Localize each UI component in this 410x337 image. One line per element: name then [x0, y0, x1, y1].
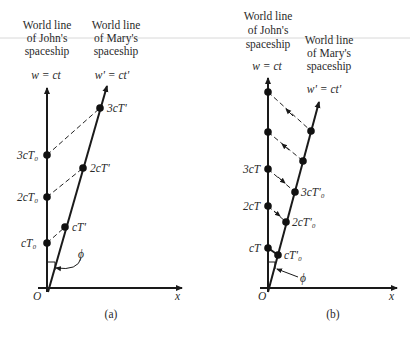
- event-dot: [79, 164, 87, 172]
- event-dot: [264, 202, 272, 210]
- mary-axis-label: w' = ct': [307, 83, 342, 95]
- angle-label: ϕ: [78, 248, 84, 261]
- event-dot: [264, 88, 272, 96]
- event-label-john: 3cT: [242, 163, 262, 175]
- mary-header-line1: World line: [305, 34, 354, 46]
- signal-arrow-icon: [282, 144, 289, 150]
- event-dot: [264, 128, 272, 136]
- event-dot: [61, 223, 69, 231]
- john-header-line3: spaceship: [246, 38, 291, 51]
- signal-arrow-icon: [278, 177, 285, 183]
- john-axis-label: w = ct: [252, 60, 282, 72]
- signal-arrow-icon: [274, 211, 280, 216]
- event-label-mary: 3cT'₀: [300, 186, 325, 198]
- x-axis-label: x: [174, 290, 181, 302]
- event-label-john: cT₀: [21, 237, 37, 249]
- john-header-line1: World line: [244, 10, 293, 22]
- event-label-mary: cT'₀: [284, 249, 302, 261]
- origin-label: O: [258, 290, 267, 302]
- john-header-line2: of John's: [248, 24, 289, 36]
- panel-b: World line of John's spaceship World lin…: [242, 10, 397, 321]
- event-label-john: cT: [249, 242, 262, 254]
- dashed-line: [47, 168, 83, 197]
- event-label-mary: cT': [72, 221, 87, 233]
- event-label-mary: 2cT'₀: [292, 216, 316, 228]
- john-header-line2: of John's: [27, 32, 68, 44]
- event-dot: [43, 151, 51, 159]
- event-label-john: 2cT₀: [17, 191, 38, 203]
- angle-label: ϕ: [300, 272, 306, 285]
- event-dot: [307, 127, 315, 135]
- john-axis-label: w = ct: [31, 69, 61, 81]
- mary-header-line1: World line: [92, 19, 141, 31]
- angle-arrow: [277, 269, 298, 277]
- mary-header-line3: spaceship: [94, 45, 139, 58]
- john-header-line3: spaceship: [25, 45, 70, 58]
- event-dot: [96, 104, 104, 112]
- origin-label: O: [33, 290, 42, 302]
- panel-a: World line of John's spaceship World lin…: [16, 19, 182, 321]
- event-dot: [43, 239, 51, 247]
- mary-header-line2: of Mary's: [307, 47, 351, 60]
- event-dot: [43, 193, 51, 201]
- spacetime-diagram: World line of John's spaceship World lin…: [0, 0, 410, 337]
- panel-caption: (b): [326, 308, 340, 321]
- mary-axis-label: w' = ct': [95, 69, 130, 81]
- event-dot: [282, 218, 290, 226]
- signal-arrow-icon: [286, 109, 293, 116]
- mary-header-line3: spaceship: [307, 60, 352, 73]
- event-dot: [299, 157, 307, 165]
- event-label-mary: 3cT': [106, 102, 127, 114]
- mary-header-line2: of Mary's: [94, 32, 138, 45]
- dashed-line: [47, 108, 100, 155]
- event-label-john: 3cT₀: [16, 149, 38, 161]
- panel-caption: (a): [105, 308, 118, 321]
- event-dot: [264, 244, 272, 252]
- event-dot: [274, 251, 282, 259]
- signal-line: [268, 92, 311, 131]
- x-axis-label: x: [388, 290, 395, 302]
- event-label-john: 2cT: [243, 200, 262, 212]
- event-dot: [291, 188, 299, 196]
- event-label-mary: 2cT': [90, 162, 110, 174]
- event-dot: [264, 165, 272, 173]
- john-header-line1: World line: [23, 19, 72, 31]
